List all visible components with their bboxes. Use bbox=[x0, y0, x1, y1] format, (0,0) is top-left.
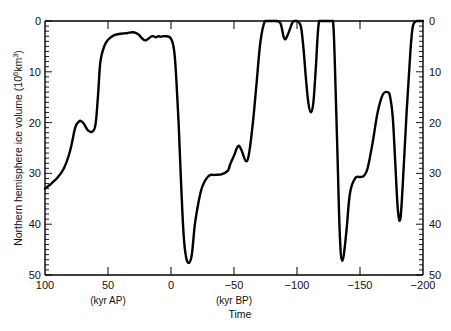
x-tick-label: −150 bbox=[348, 279, 373, 291]
ice-volume-line bbox=[45, 21, 423, 263]
y-tick-label-left: 0 bbox=[35, 15, 41, 27]
y-tick-label-left: 20 bbox=[29, 117, 41, 129]
x-unit-bp: (kyr BP) bbox=[216, 295, 252, 306]
x-tick-label: 0 bbox=[168, 279, 174, 291]
y-tick-label-left: 30 bbox=[29, 167, 41, 179]
y-tick-label-right: 40 bbox=[429, 218, 441, 230]
y-tick-label-left: 40 bbox=[29, 218, 41, 230]
y-axis-title: Northern hemisphere ice volume (106km3) bbox=[11, 50, 24, 246]
y-tick-label-right: 30 bbox=[429, 167, 441, 179]
x-tick-label: 50 bbox=[102, 279, 114, 291]
x-tick-label: −100 bbox=[285, 279, 310, 291]
ice-volume-chart: 01020304050 01020304050 100500−50−100−15… bbox=[0, 0, 451, 331]
x-tick-label: 100 bbox=[36, 279, 54, 291]
x-unit-ap: (kyr AP) bbox=[90, 295, 126, 306]
y-tick-label-right: 20 bbox=[429, 117, 441, 129]
left-y-axis: 01020304050 bbox=[29, 15, 52, 281]
y-tick-label-left: 10 bbox=[29, 66, 41, 78]
y-tick-label-right: 0 bbox=[429, 15, 435, 27]
x-tick-label: −200 bbox=[411, 279, 436, 291]
x-axis-title: Time bbox=[229, 308, 252, 320]
right-y-axis: 01020304050 bbox=[416, 15, 441, 281]
x-tick-label: −50 bbox=[225, 279, 244, 291]
x-axis: 100500−50−100−150−200 bbox=[36, 21, 436, 291]
y-tick-label-right: 10 bbox=[429, 66, 441, 78]
